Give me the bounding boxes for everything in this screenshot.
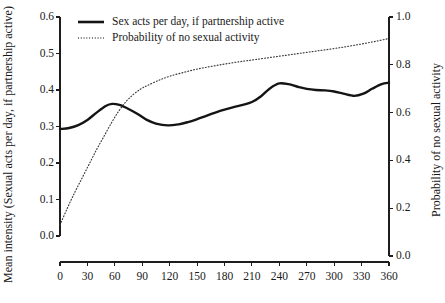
y-axis-right-tick-label: 0.0	[396, 250, 410, 262]
figure-chart: 0.00.10.20.30.40.50.60.00.20.40.60.81.00…	[0, 0, 445, 303]
y-axis-right-tick-label: 0.6	[396, 107, 410, 119]
x-axis-tick-label: 270	[298, 271, 315, 283]
y-axis-left-tick-label: 0.6	[16, 11, 54, 23]
y-axis-left-title: Mean intensity (Sexual acts per day, if …	[2, 0, 18, 296]
legend-label-2: Probability of no sexual activity	[112, 32, 260, 44]
x-axis-tick-label: 150	[188, 271, 205, 283]
y-axis-right-tick-label: 0.4	[396, 155, 410, 167]
y-axis-right-tick-label: 0.2	[396, 202, 410, 214]
x-axis-tick-label: 360	[380, 271, 397, 283]
series-line-2	[60, 39, 389, 225]
x-axis-tick-label: 0	[57, 271, 63, 283]
x-axis-tick-label: 330	[353, 271, 370, 283]
y-axis-left-tick-label: 0.0	[16, 230, 54, 242]
y-axis-left-tick-label: 0.4	[16, 84, 54, 96]
series-line-1	[60, 83, 389, 129]
x-axis-tick-label: 180	[216, 271, 233, 283]
legend-label-1: Sex acts per day, if partnership active	[112, 16, 284, 28]
y-axis-left-tick-label: 0.1	[16, 194, 54, 206]
y-axis-right-tick-label: 1.0	[396, 11, 410, 23]
x-axis-tick-label: 300	[326, 271, 343, 283]
x-axis-tick-label: 90	[137, 271, 149, 283]
y-axis-right-title: Probability of no sexual activity	[430, 10, 445, 270]
x-axis-tick-label: 240	[271, 271, 288, 283]
legend-marks	[78, 22, 104, 38]
y-axis-left-tick-label: 0.2	[16, 157, 54, 169]
x-axis-tick-label: 60	[109, 271, 121, 283]
y-axis-left-tick-label: 0.5	[16, 48, 54, 60]
y-axis-right-tick-label: 0.8	[396, 59, 410, 71]
x-axis-tick-label: 120	[161, 271, 178, 283]
y-axis-left-tick-label: 0.3	[16, 121, 54, 133]
x-axis-tick-label: 30	[82, 271, 94, 283]
axes-group	[56, 17, 393, 266]
plot-canvas	[0, 0, 445, 303]
series-group	[60, 39, 389, 225]
x-axis-tick-label: 210	[243, 271, 260, 283]
